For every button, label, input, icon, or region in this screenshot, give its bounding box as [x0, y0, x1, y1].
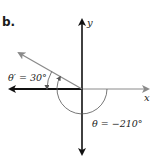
angle-diagram: y x θ′ = 30° θ = −210°	[0, 0, 153, 168]
y-axis-label: y	[86, 17, 93, 28]
x-axis-label: x	[144, 92, 150, 103]
terminal-ray	[19, 53, 82, 89]
angle-label: θ = −210°	[92, 118, 143, 129]
reference-angle-arc	[47, 72, 52, 90]
reference-angle-label: θ′ = 30°	[8, 72, 47, 83]
